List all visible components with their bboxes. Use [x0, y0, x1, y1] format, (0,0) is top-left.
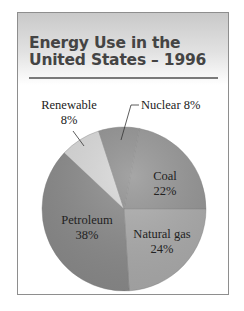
label-petroleum-name: Petroleum: [61, 213, 113, 227]
label-petroleum-pct: 38%: [76, 228, 99, 242]
label-coal-pct: 22%: [154, 184, 177, 198]
label-nuclear: Nuclear 8%: [141, 98, 200, 112]
label-natural-gas-name: Natural gas: [133, 227, 190, 241]
label-renewable-pct: 8%: [61, 113, 78, 127]
pie-shading: [42, 127, 206, 291]
label-renewable-name: Renewable: [41, 98, 97, 112]
pie-chart: Nuclear 8% Renewable 8% Coal 22% Petrole…: [0, 0, 244, 311]
label-natural-gas-pct: 24%: [151, 242, 174, 256]
label-coal-name: Coal: [153, 169, 177, 183]
